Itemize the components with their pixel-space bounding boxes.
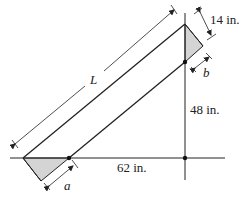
length-label: L	[89, 72, 97, 87]
support-point-b	[183, 60, 187, 64]
support-point-a	[67, 156, 71, 160]
width-label: 14 in.	[210, 12, 240, 27]
diagram-canvas: L 14 in. b a 48 in. 62 in.	[0, 0, 243, 202]
corner-point	[183, 156, 187, 160]
horizontal-label: 62 in.	[117, 160, 147, 175]
lower-shaded-end	[23, 158, 69, 181]
offset-b-label: b	[203, 65, 210, 80]
offset-a-label: a	[64, 178, 71, 193]
bar-upper-edge	[23, 24, 185, 158]
bar-lower-edge	[69, 62, 185, 158]
height-label: 48 in.	[190, 102, 220, 117]
